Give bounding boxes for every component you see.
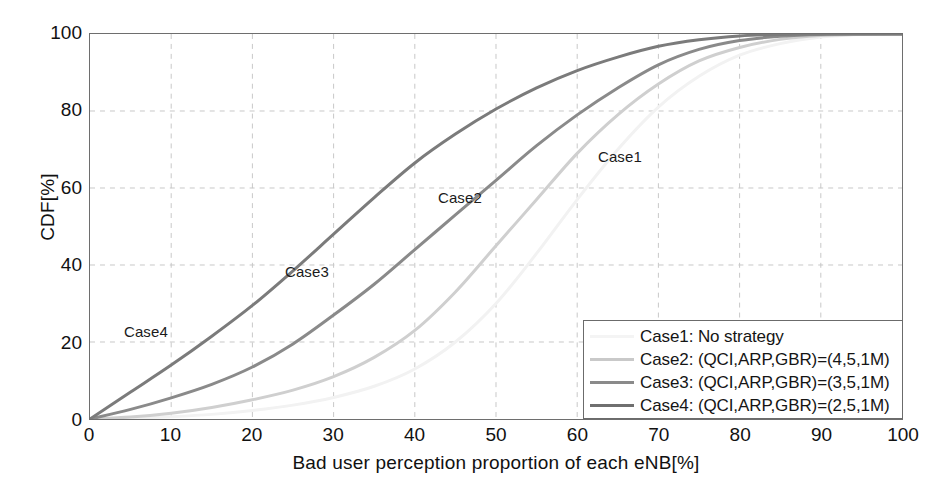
x-tick-label: 10 bbox=[147, 425, 193, 444]
y-tick-label: 80 bbox=[36, 100, 82, 119]
curve-annotation-case3: Case3 bbox=[285, 263, 329, 280]
legend-swatch-icon bbox=[590, 404, 634, 407]
legend-label: Case2: (QCI,ARP,GBR)=(4,5,1M) bbox=[640, 350, 890, 370]
legend-label: Case4: (QCI,ARP,GBR)=(2,5,1M) bbox=[640, 396, 890, 416]
x-axis-label: Bad user perception proportion of each e… bbox=[89, 452, 903, 474]
x-tick-label: 70 bbox=[636, 425, 682, 444]
x-tick-label: 100 bbox=[880, 425, 926, 444]
y-tick-label: 40 bbox=[36, 255, 82, 274]
legend-swatch-icon bbox=[590, 335, 634, 338]
legend-box: Case1: No strategyCase2: (QCI,ARP,GBR)=(… bbox=[583, 320, 903, 419]
legend-label: Case1: No strategy bbox=[640, 327, 784, 347]
curve-annotation-case4: Case4 bbox=[124, 323, 168, 340]
legend-item[interactable]: Case1: No strategy bbox=[584, 325, 902, 348]
x-tick-label: 50 bbox=[473, 425, 519, 444]
legend-label: Case3: (QCI,ARP,GBR)=(3,5,1M) bbox=[640, 373, 890, 393]
legend-item[interactable]: Case2: (QCI,ARP,GBR)=(4,5,1M) bbox=[584, 348, 902, 371]
chart-figure: CDF[%] 020406080100 01020304050607080901… bbox=[0, 0, 947, 489]
y-tick-label: 60 bbox=[36, 178, 82, 197]
x-tick-label: 40 bbox=[392, 425, 438, 444]
x-tick-label: 90 bbox=[799, 425, 845, 444]
curve-annotation-case2: Case2 bbox=[438, 189, 482, 206]
curve-annotation-case1: Case1 bbox=[598, 148, 642, 165]
y-tick-label: 20 bbox=[36, 333, 82, 352]
y-tick-label: 100 bbox=[36, 23, 82, 42]
legend-item[interactable]: Case3: (QCI,ARP,GBR)=(3,5,1M) bbox=[584, 371, 902, 394]
y-axis-ticks: 020406080100 bbox=[32, 0, 82, 489]
legend-swatch-icon bbox=[590, 381, 634, 384]
legend-swatch-icon bbox=[590, 358, 634, 361]
x-tick-label: 20 bbox=[229, 425, 275, 444]
x-tick-label: 30 bbox=[310, 425, 356, 444]
x-tick-label: 0 bbox=[66, 425, 112, 444]
x-tick-label: 60 bbox=[554, 425, 600, 444]
x-tick-label: 80 bbox=[717, 425, 763, 444]
legend-item[interactable]: Case4: (QCI,ARP,GBR)=(2,5,1M) bbox=[584, 394, 902, 417]
